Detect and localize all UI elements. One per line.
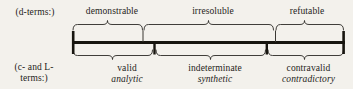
- upper-brace-refutable: [276, 21, 344, 31]
- lower-brace-contravalid-contradictory: [268, 50, 344, 60]
- upper-braces: [73, 21, 344, 31]
- upper-brace-irresoluble: [144, 21, 274, 31]
- upper-brace-demonstrable: [73, 21, 143, 31]
- diagram-graphics: [0, 0, 353, 89]
- logic-terms-diagram: (d-terms:) (c- and L- terms:) demonstrab…: [0, 0, 353, 89]
- lower-braces: [73, 50, 344, 60]
- lower-brace-valid-analytic: [73, 50, 153, 60]
- lower-brace-indeterminate-synthetic: [156, 50, 266, 60]
